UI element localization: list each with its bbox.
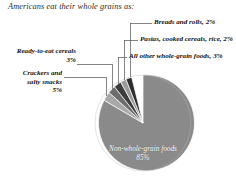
callout-crackers-line2: salty snacks — [4, 78, 62, 87]
leader-line-cereals — [77, 64, 112, 89]
callout-pastas: Pastas, cooked cereals, rice, 2% — [140, 35, 233, 44]
callout-ready-to-eat-cereals-pct: 3% — [0, 56, 76, 65]
callout-crackers-line1: Crackers and — [4, 69, 62, 78]
pie-center-label: Non-whole-grain foods 85% — [93, 144, 193, 162]
callout-ready-to-eat-cereals: Ready-to-eat cereals 3% — [0, 47, 76, 64]
callout-crackers-salty-snacks: Crackers and salty snacks 5% — [4, 69, 62, 95]
callout-breads-and-rolls: Breads and rolls, 2% — [154, 18, 215, 27]
pie-center-label-name: Non-whole-grain foods — [93, 144, 193, 153]
pie-chart-figure: Americans eat their whole grains as: — [0, 0, 236, 193]
pie-chart-canvas — [0, 0, 236, 193]
callout-crackers-pct: 5% — [4, 86, 62, 95]
callout-all-other-whole-grain: All other whole-grain foods, 3% — [129, 52, 223, 61]
callout-ready-to-eat-cereals-name: Ready-to-eat cereals — [0, 47, 76, 56]
pie-center-label-pct: 85% — [93, 153, 193, 162]
leader-line-breads — [130, 23, 152, 77]
leader-line-crackers — [64, 77, 106, 96]
